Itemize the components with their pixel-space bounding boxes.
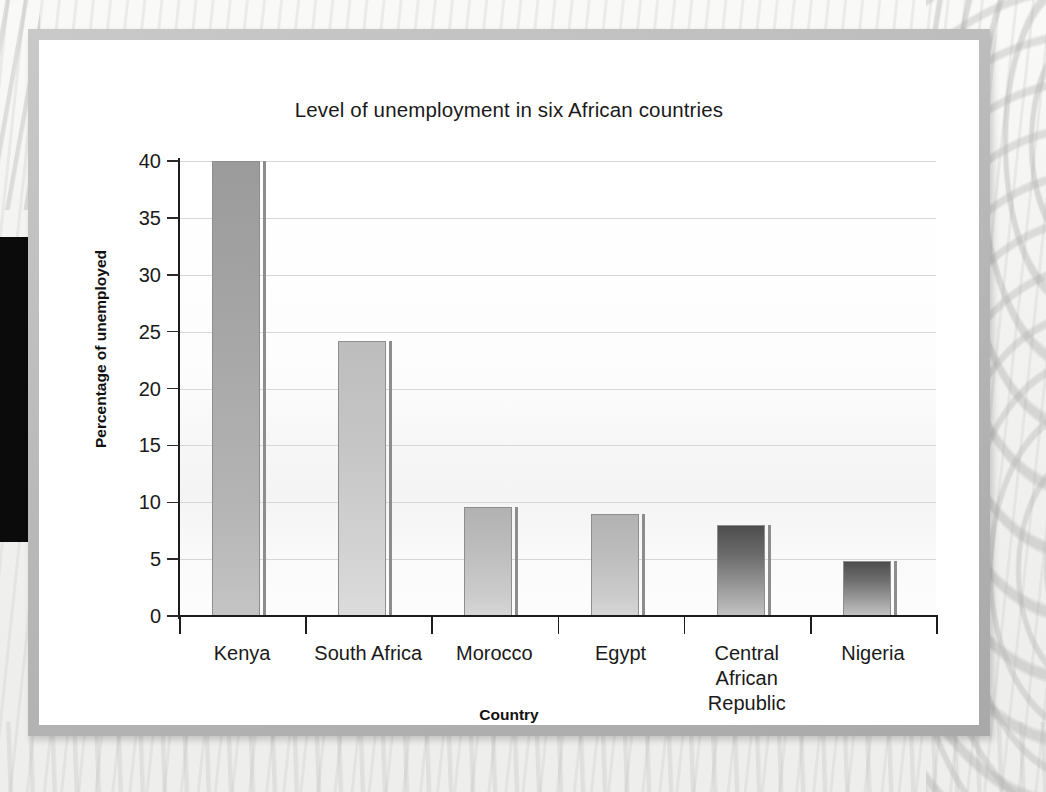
y-axis-tick-label-text: 15	[109, 434, 161, 457]
bar	[464, 507, 512, 616]
bar	[338, 341, 386, 616]
x-axis-title: Country	[39, 706, 979, 724]
y-axis-tick	[167, 388, 179, 390]
x-axis-tick	[684, 617, 686, 634]
bar-body	[843, 561, 891, 616]
x-axis-tick-label-line: Kenya	[179, 641, 305, 666]
figure-frame: Level of unemployment in six African cou…	[28, 29, 990, 736]
x-axis-tick-label: CentralAfricanRepublic	[684, 641, 810, 716]
y-axis-tick-label-text: 10	[109, 491, 161, 514]
y-axis-tick	[167, 160, 179, 162]
gridline	[179, 332, 936, 333]
y-axis-tick	[167, 445, 179, 447]
x-axis-tick-label-line: Morocco	[431, 641, 557, 666]
x-axis-tick-label-line: South Africa	[305, 641, 431, 666]
x-axis-tick-label-line: Egypt	[558, 641, 684, 666]
bar	[843, 561, 891, 616]
x-axis-tick	[305, 617, 307, 634]
y-axis-tick-label-text: 30	[109, 264, 161, 287]
gridline	[179, 502, 936, 503]
x-axis-tick-label-line: Central	[684, 641, 810, 666]
gridline	[179, 445, 936, 446]
gridline	[179, 218, 936, 219]
y-axis-title: Percentage of unemployed	[92, 229, 110, 469]
page-background: Level of unemployment in six African cou…	[0, 0, 1046, 792]
bar-shadow-edge	[642, 514, 645, 616]
y-axis-tick-label-text: 0	[109, 605, 161, 628]
y-axis-tick-label: 40	[99, 150, 161, 170]
bar	[717, 525, 765, 616]
y-axis-tick-label-text: 40	[109, 150, 161, 173]
bar-shadow-edge	[263, 161, 266, 616]
bar-body	[717, 525, 765, 616]
bar-shadow-edge	[515, 507, 518, 616]
gridline	[179, 389, 936, 390]
x-axis-tick-label-line: Nigeria	[810, 641, 936, 666]
x-axis-tick-label: Nigeria	[810, 641, 936, 666]
y-axis-tick-label-text: 35	[109, 207, 161, 230]
x-axis-tick	[179, 617, 181, 634]
bar-body	[464, 507, 512, 616]
x-axis-tick	[936, 617, 938, 634]
bar-shadow-edge	[389, 341, 392, 616]
y-axis-tick	[167, 558, 179, 560]
x-axis-tick-label: South Africa	[305, 641, 431, 666]
figure-card: Level of unemployment in six African cou…	[39, 40, 979, 725]
y-axis-tick-label: 35	[99, 207, 161, 227]
bar-body	[338, 341, 386, 616]
bar-shadow-edge	[894, 561, 897, 616]
plot-area	[179, 161, 936, 616]
x-axis-tick	[558, 617, 560, 634]
y-axis-tick-label: 5	[99, 548, 161, 568]
bar	[591, 514, 639, 616]
x-axis-tick	[810, 617, 812, 634]
chart-title: Level of unemployment in six African cou…	[39, 98, 979, 122]
x-axis-tick-label: Morocco	[431, 641, 557, 666]
y-axis-tick	[167, 615, 179, 617]
gridline	[179, 275, 936, 276]
y-axis-tick-label: 0	[99, 605, 161, 625]
bar-body	[591, 514, 639, 616]
y-axis-tick-label: 10	[99, 491, 161, 511]
y-axis-tick	[167, 217, 179, 219]
bar	[212, 161, 260, 616]
x-axis-tick	[431, 617, 433, 634]
y-axis-tick-label-text: 5	[109, 548, 161, 571]
bar-body	[212, 161, 260, 616]
x-axis-tick-label-line: African	[684, 666, 810, 691]
y-axis-tick-label-text: 20	[109, 378, 161, 401]
y-axis-tick	[167, 331, 179, 333]
y-axis-tick	[167, 502, 179, 504]
y-axis-tick-label-text: 25	[109, 321, 161, 344]
gridline	[179, 559, 936, 560]
x-axis-tick-label: Kenya	[179, 641, 305, 666]
y-axis-tick	[167, 274, 179, 276]
bar-shadow-edge	[768, 525, 771, 616]
x-axis-tick-label: Egypt	[558, 641, 684, 666]
gridline	[179, 161, 936, 162]
